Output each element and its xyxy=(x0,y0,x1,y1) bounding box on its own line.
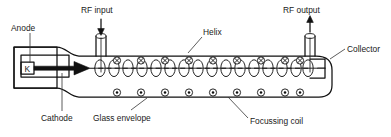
coil-symbol-cross xyxy=(281,57,288,64)
label-focussing-coil: Focussing coil xyxy=(250,116,303,126)
label-anode: Anode xyxy=(11,23,36,33)
coil-symbol-cross xyxy=(296,57,303,64)
label-collector: Collector xyxy=(347,44,380,54)
leader-collector xyxy=(330,49,345,59)
coil-symbol-cross xyxy=(113,57,120,64)
coil-symbol-dot xyxy=(185,89,192,96)
coil-symbol-dot xyxy=(233,89,240,96)
coil-symbol-cross xyxy=(185,57,192,64)
label-glass-envelope: Glass envelope xyxy=(93,113,151,123)
twt-schematic-svg: K xyxy=(0,0,391,137)
label-cathode: Cathode xyxy=(41,113,73,123)
focussing-coil-bottom-row xyxy=(113,89,303,96)
coil-symbol-cross xyxy=(257,57,264,64)
coil-symbol-cross xyxy=(233,57,240,64)
coil-symbol-dot xyxy=(161,89,168,96)
coil-symbol-cross xyxy=(137,57,144,64)
twt-diagram-root: K xyxy=(0,0,391,137)
coil-symbol-dot xyxy=(281,89,288,96)
coil-symbol-dot xyxy=(209,89,216,96)
leader-glass-envelope xyxy=(131,98,147,110)
coil-symbol-cross xyxy=(209,57,216,64)
leader-helix xyxy=(188,37,202,53)
label-helix: Helix xyxy=(203,27,222,37)
label-rf-input: RF input xyxy=(81,5,113,15)
rf-output-connector xyxy=(305,16,315,72)
coil-symbol-dot xyxy=(257,89,264,96)
coil-symbol-dot xyxy=(137,89,144,96)
leader-focussing-coil xyxy=(228,97,248,118)
cathode-symbol-label: K xyxy=(25,64,31,74)
coil-symbol-dot xyxy=(296,89,303,96)
leader-lines xyxy=(30,33,345,118)
label-rf-output: RF output xyxy=(283,5,320,15)
focussing-coil-top-row xyxy=(113,57,303,64)
coil-symbol-cross xyxy=(161,57,168,64)
coil-symbol-dot xyxy=(113,89,120,96)
